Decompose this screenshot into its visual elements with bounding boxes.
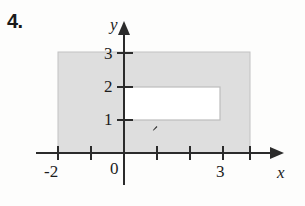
x-tick-label-neg2: -2: [44, 163, 58, 180]
y-tick-label-2: 2: [104, 78, 113, 95]
x-axis-name: x: [277, 164, 285, 181]
x-tick-label-3: 3: [216, 163, 225, 180]
figure-container: 4.: [0, 0, 305, 206]
region-hole-white: [124, 87, 220, 120]
y-axis-arrowhead: [118, 21, 130, 35]
x-axis-arrowhead: [270, 147, 284, 159]
y-tick-label-1: 1: [104, 111, 113, 128]
y-tick-label-3: 3: [104, 45, 113, 62]
origin-label: 0: [110, 160, 119, 177]
print-artifact: [152, 125, 158, 131]
y-axis-name: y: [110, 16, 118, 33]
